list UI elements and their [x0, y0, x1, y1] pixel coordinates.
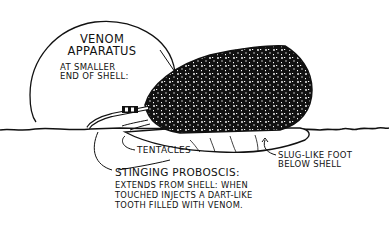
proboscis-title: STINGING PROBOSCIS:	[115, 167, 240, 178]
venom-apparatus-title: VENOM APPARATUS	[62, 33, 142, 57]
venom-title-line2: APPARATUS	[62, 45, 142, 57]
proboscis-line3: TOOTH FILLED WITH VENOM.	[115, 201, 253, 211]
foot-label: SLUG-LIKE FOOT BELOW SHELL	[278, 151, 352, 169]
tentacles-leader	[122, 136, 135, 150]
proboscis-description: EXTENDS FROM SHELL: WHEN TOUCHED INJECTS…	[115, 181, 253, 211]
diagram-canvas: VENOM APPARATUS AT SMALLER END OF SHELL:…	[0, 0, 389, 225]
proboscis-leader	[94, 132, 112, 170]
venom-sub-line2: END OF SHELL:	[60, 72, 129, 81]
cone-shell	[145, 46, 312, 133]
proboscis	[88, 108, 148, 128]
foot-line2: BELOW SHELL	[278, 160, 352, 169]
siphon-band	[122, 106, 138, 113]
venom-apparatus-subtitle: AT SMALLER END OF SHELL:	[60, 63, 129, 81]
tentacles-label: TENTACLES	[137, 146, 191, 155]
